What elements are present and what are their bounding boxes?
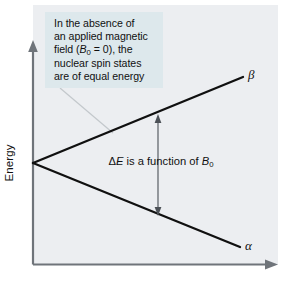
beta-energy-line (33, 77, 243, 163)
callout-leader-line (60, 88, 113, 133)
callout-line-3-pre: field ( (54, 43, 80, 55)
arrow-up-icon (28, 40, 38, 52)
callout-line-3-post: = 0), the (91, 43, 133, 55)
magnetic-field-subscript: 0 (209, 160, 213, 169)
callout-line-1: In the absence of (54, 17, 134, 29)
beta-state-label: β (248, 67, 254, 83)
nmr-energy-level-figure: Energy In the absence ofan applied magne… (0, 0, 288, 286)
callout-text: In the absence ofan applied magneticfiel… (54, 17, 156, 83)
arrow-right-icon (265, 259, 278, 269)
delta-symbol: Δ (108, 155, 115, 167)
alpha-energy-line (33, 163, 240, 247)
callout-box: In the absence ofan applied magneticfiel… (45, 12, 163, 88)
callout-field-subscript: 0 (87, 48, 91, 57)
callout-line-5: are of equal energy (54, 70, 144, 82)
alpha-state-label: α (245, 238, 252, 254)
y-axis-label: Energy (3, 133, 15, 193)
callout-line-4: nuclear spin states (54, 57, 141, 69)
callout-field-variable: B (80, 43, 87, 55)
delta-energy-annotation: ΔE is a function of B0 (91, 155, 231, 167)
delta-annotation-middle-text: is a function of (123, 155, 201, 167)
callout-line-2: an applied magnetic (54, 30, 148, 42)
